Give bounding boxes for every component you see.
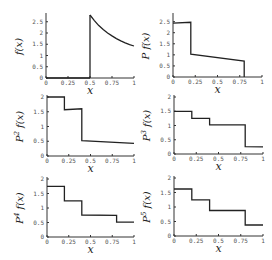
x-tick-label: 0.75 [105, 157, 120, 164]
figure: 00.250.50.75100.511.522.5xf(x) 00.250.50… [0, 0, 272, 260]
x-tick-label: 0.25 [62, 157, 77, 164]
y-axis-label: P4 f(x) [13, 192, 25, 225]
y-tick-label: 2.5 [32, 18, 43, 25]
y-tick-label: 1 [167, 203, 171, 210]
y-axis-label: P3 f(x) [140, 110, 152, 143]
x-tick-label: 1 [261, 155, 265, 162]
x-tick-label: 0 [44, 79, 48, 86]
y-tick-label: 0.5 [32, 63, 43, 70]
y-tick-label: 2 [39, 29, 43, 36]
y-tick-label: 2 [40, 93, 44, 100]
y-tick-label: 0 [40, 152, 44, 159]
x-tick-label: 1 [132, 79, 136, 86]
x-tick-label: 0 [172, 237, 176, 244]
x-tick-label: 0.75 [105, 238, 120, 245]
y-tick-label: 0.5 [160, 218, 171, 225]
y-tick-label: 0.5 [33, 137, 44, 144]
y-tick-label: 1.5 [33, 190, 44, 197]
y-tick-label: 1.5 [32, 40, 43, 47]
x-tick-label: 0.25 [189, 237, 204, 244]
y-axis-label: P2 f(x) [13, 111, 25, 144]
y-tick-label: 1.5 [159, 40, 170, 47]
y-tick-label: 1.5 [160, 189, 171, 196]
y-tick-label: 1.5 [33, 108, 44, 115]
x-tick-label: 1 [261, 237, 265, 244]
y-axis-label: P5 f(x) [140, 191, 152, 224]
y-tick-label: 0 [167, 150, 171, 157]
y-tick-label: 1 [166, 51, 170, 58]
y-tick-label: 0 [166, 73, 170, 80]
x-axis-label: x [87, 84, 94, 97]
y-tick-label: 2.5 [159, 18, 170, 25]
panel-P5f: 00.250.50.75100.511.52xP5 f(x) [140, 174, 265, 255]
data-line [47, 97, 134, 143]
x-tick-label: 0.75 [233, 78, 248, 85]
data-line [47, 186, 134, 222]
x-tick-label: 0.25 [189, 155, 204, 162]
x-tick-label: 0.25 [61, 79, 76, 86]
x-tick-label: 0.25 [62, 238, 77, 245]
x-axis-label: x [215, 160, 222, 173]
y-tick-label: 2 [167, 93, 171, 100]
y-tick-label: 1 [39, 52, 43, 59]
panel-f: 00.250.50.75100.511.522.5xf(x) [13, 13, 136, 97]
x-tick-label: 1 [132, 157, 136, 164]
y-axis-label: f(x) [13, 38, 24, 56]
y-tick-label: 1.5 [160, 107, 171, 114]
data-line [174, 189, 263, 225]
y-axis-label: P f(x) [140, 32, 151, 60]
x-axis-label: x [214, 83, 221, 96]
panel-Pf: 00.250.50.75100.511.522.5xP f(x) [140, 13, 264, 96]
y-tick-label: 1 [40, 204, 44, 211]
y-tick-label: 0 [40, 233, 44, 240]
y-tick-label: 1 [40, 123, 44, 130]
y-tick-label: 0.5 [160, 136, 171, 143]
x-axis-label: x [87, 162, 94, 175]
panel-P3f: 00.250.50.75100.511.52xP3 f(x) [140, 93, 265, 173]
x-tick-label: 0 [45, 157, 49, 164]
x-tick-label: 1 [260, 78, 264, 85]
x-tick-label: 0 [171, 78, 175, 85]
x-tick-label: 0.75 [105, 79, 120, 86]
y-tick-label: 0 [39, 74, 43, 81]
y-tick-label: 0.5 [33, 219, 44, 226]
y-tick-label: 2 [167, 174, 171, 181]
panel-P4f: 00.250.50.75100.511.52xP4 f(x) [13, 175, 136, 256]
panel-P2f: 00.250.50.75100.511.52xP2 f(x) [13, 93, 136, 175]
y-tick-label: 0 [167, 232, 171, 239]
y-tick-label: 2 [166, 29, 170, 36]
x-tick-label: 0 [45, 238, 49, 245]
data-line [90, 15, 134, 46]
y-tick-label: 1 [167, 122, 171, 129]
x-tick-label: 0.25 [188, 78, 203, 85]
y-tick-label: 0.5 [159, 62, 170, 69]
data-line [173, 22, 244, 77]
y-tick-label: 2 [40, 175, 44, 182]
x-tick-label: 0.75 [234, 155, 249, 162]
x-tick-label: 0 [172, 155, 176, 162]
x-tick-label: 0.75 [234, 237, 249, 244]
x-axis-label: x [215, 242, 222, 255]
x-tick-label: 1 [132, 238, 136, 245]
data-line [174, 111, 263, 147]
x-axis-label: x [87, 243, 94, 256]
